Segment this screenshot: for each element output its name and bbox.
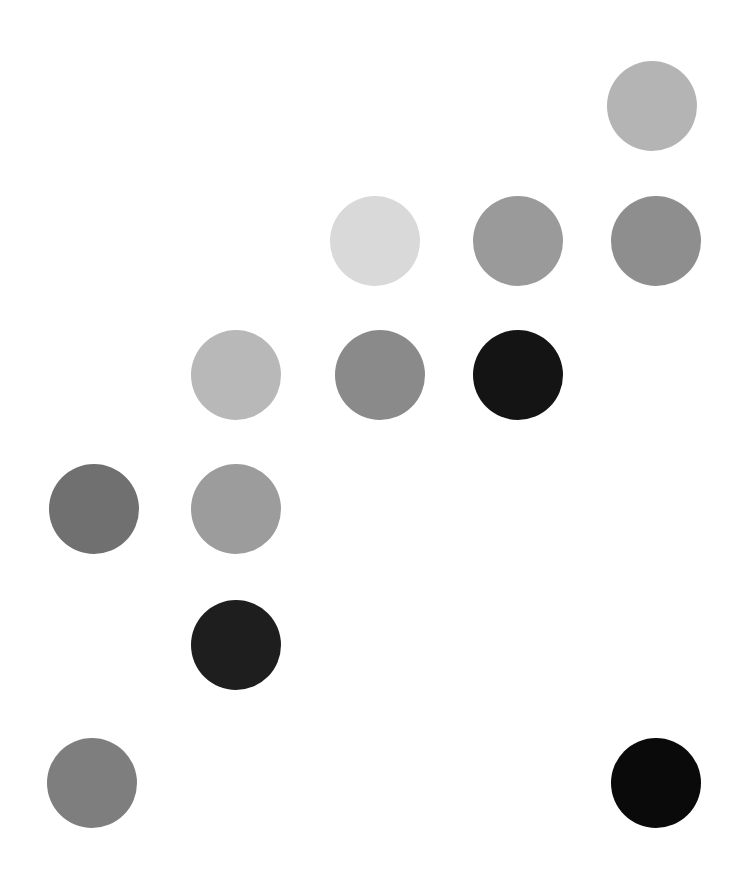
scatter-point	[191, 464, 281, 554]
scatter-point	[473, 330, 563, 420]
circle-scatter-canvas	[0, 0, 736, 895]
scatter-point	[47, 738, 137, 828]
scatter-point	[191, 600, 281, 690]
scatter-point	[330, 196, 420, 286]
scatter-point	[49, 464, 139, 554]
scatter-point	[611, 738, 701, 828]
scatter-point	[335, 330, 425, 420]
scatter-point	[473, 196, 563, 286]
scatter-point	[191, 330, 281, 420]
scatter-point	[607, 61, 697, 151]
scatter-point	[611, 196, 701, 286]
